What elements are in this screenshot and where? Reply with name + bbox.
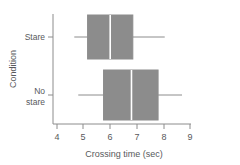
x-tick-label-2: 6 (107, 132, 112, 142)
x-axis-title: Crossing time (sec) (85, 149, 163, 159)
category-label-stare: Stare (25, 32, 46, 42)
x-tick-label-3: 7 (134, 132, 139, 142)
y-axis-title: Condition (8, 50, 18, 88)
category-label-no-stare-line2: stare (26, 97, 45, 107)
x-tick-labels: 4 5 6 7 8 9 (54, 132, 192, 142)
x-axis-ticks (57, 124, 190, 129)
x-tick-label-5: 9 (187, 132, 192, 142)
category-label-no-stare-line1: No (34, 86, 45, 96)
x-tick-label-0: 4 (54, 132, 59, 142)
box-no-stare (78, 70, 182, 120)
x-tick-label-4: 8 (161, 132, 166, 142)
boxplot-series (74, 15, 182, 120)
boxplot-figure: 4 5 6 7 8 9 Crossing time (sec) Conditio… (0, 0, 240, 165)
box-stare (74, 15, 164, 59)
chart-canvas: 4 5 6 7 8 9 Crossing time (sec) Conditio… (0, 0, 240, 165)
x-tick-label-1: 5 (80, 132, 85, 142)
